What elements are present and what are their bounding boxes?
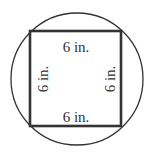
label-left: 6 in.	[35, 66, 51, 93]
label-right: 6 in.	[102, 66, 118, 93]
label-top: 6 in.	[63, 39, 90, 55]
diagram-canvas: 6 in. 6 in. 6 in. 6 in.	[0, 0, 147, 157]
label-bottom: 6 in.	[63, 109, 90, 125]
